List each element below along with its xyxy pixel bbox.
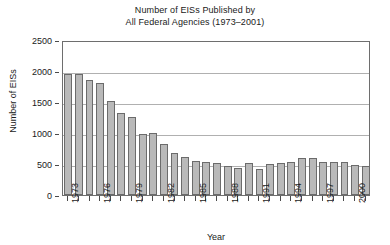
x-axis-title: Year xyxy=(62,232,370,242)
x-tick-mark-1973 xyxy=(67,196,68,201)
x-tick-mark-1991 xyxy=(258,196,259,201)
x-tick-mark-2000 xyxy=(354,196,355,201)
bar-1974 xyxy=(75,74,83,195)
y-tick-mark-0 xyxy=(55,196,59,197)
x-axis-labels: 1973197619791982198519881991199419972000 xyxy=(62,203,370,231)
x-tick-mark-1976 xyxy=(99,196,100,201)
x-tick-mark-1981 xyxy=(152,196,153,201)
x-tick-mark-1988 xyxy=(227,196,228,201)
y-tick-label-1500: 1500 xyxy=(32,99,52,108)
y-tick-mark-2500 xyxy=(55,41,59,42)
x-tick-label-1979: 1979 xyxy=(135,183,144,203)
bar-1999 xyxy=(341,162,349,195)
x-tick-label-1973: 1973 xyxy=(71,183,80,203)
y-tick-label-2000: 2000 xyxy=(32,68,52,77)
bar-1990 xyxy=(245,163,253,195)
bar-1993 xyxy=(277,163,285,195)
x-tick-mark-1994 xyxy=(290,196,291,201)
chart-figure: Number of EISs Published by All Federal … xyxy=(0,0,390,245)
y-tick-mark-500 xyxy=(55,165,59,166)
y-tick-mark-2000 xyxy=(55,72,59,73)
x-tick-mark-1985 xyxy=(195,196,196,201)
y-tick-label-500: 500 xyxy=(37,161,52,170)
bar-1973 xyxy=(64,74,72,195)
x-tick-mark-1990 xyxy=(248,196,249,201)
x-tick-label-1976: 1976 xyxy=(103,183,112,203)
bar-1978 xyxy=(117,113,125,195)
x-tick-mark-1996 xyxy=(312,196,313,201)
y-tick-label-0: 0 xyxy=(47,192,52,201)
bar-1996 xyxy=(309,158,317,195)
bar-1976 xyxy=(96,83,104,195)
plot-area xyxy=(62,41,370,196)
x-tick-mark-1997 xyxy=(322,196,323,201)
x-tick-label-1985: 1985 xyxy=(199,183,208,203)
bar-series xyxy=(63,42,369,195)
x-tick-label-1988: 1988 xyxy=(231,183,240,203)
x-tick-mark-1982 xyxy=(163,196,164,201)
y-axis-title: Number of EISs xyxy=(8,46,18,156)
y-tick-mark-1000 xyxy=(55,134,59,135)
x-tick-mark-1984 xyxy=(184,196,185,201)
bar-1987 xyxy=(213,163,221,195)
x-tick-label-1997: 1997 xyxy=(326,183,335,203)
bar-1981 xyxy=(149,133,157,195)
x-tick-label-2000: 2000 xyxy=(358,183,367,203)
x-tick-mark-1975 xyxy=(89,196,90,201)
x-tick-label-1982: 1982 xyxy=(167,183,176,203)
y-tick-label-2500: 2500 xyxy=(32,37,52,46)
x-tick-mark-1987 xyxy=(216,196,217,201)
x-tick-mark-1999 xyxy=(343,196,344,201)
y-tick-mark-1500 xyxy=(55,103,59,104)
x-tick-mark-1979 xyxy=(131,196,132,201)
y-tick-label-1000: 1000 xyxy=(32,130,52,139)
bar-1984 xyxy=(181,157,189,195)
bar-1977 xyxy=(107,101,115,195)
x-tick-label-1994: 1994 xyxy=(294,183,303,203)
x-tick-mark-1993 xyxy=(280,196,281,201)
x-tick-label-1991: 1991 xyxy=(262,183,271,203)
bar-1975 xyxy=(86,80,94,195)
x-tick-mark-1978 xyxy=(120,196,121,201)
